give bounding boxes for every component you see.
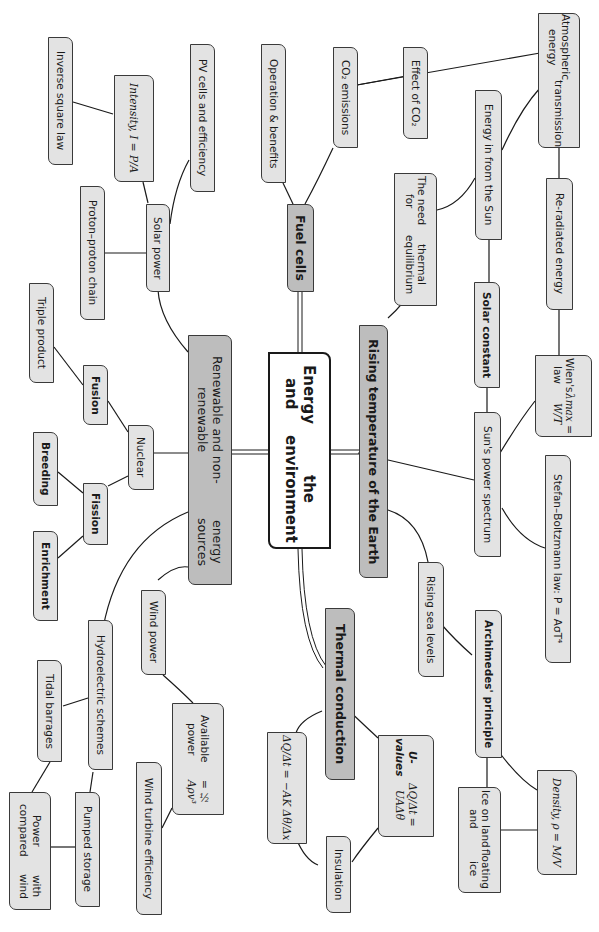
node-ice-land-floating[interactable]: Ice on land and floating ice [458, 787, 501, 893]
enrichment-label: Enrichment [39, 542, 52, 610]
tidal-label: Tidal barrages [43, 674, 56, 749]
stefan-label: Stefan–Boltzmann law: P = AσT⁴ [552, 474, 565, 643]
root-node[interactable]: Energy and the environment [268, 352, 331, 549]
node-energy-from-sun[interactable]: Energy in from the Sun [475, 90, 502, 240]
node-wind-turbine-efficiency[interactable]: Wind turbine efficiency [136, 762, 162, 915]
power-compared-line2: with wind [17, 866, 42, 907]
branch-renewable-label-line2: energy sources [195, 501, 225, 582]
node-archimedes-principle[interactable]: Archimedes' principle [475, 610, 502, 758]
node-u-values[interactable]: U-values ΔQ/Δt = UAΔθ [378, 735, 434, 837]
branch-rising-temp-label: Rising temperature of the Earth [366, 339, 381, 564]
node-tidal-barrages[interactable]: Tidal barrages [37, 660, 62, 762]
node-proton-proton-chain[interactable]: Proton–proton chain [80, 186, 105, 320]
fusion-label: Fusion [89, 376, 102, 415]
branch-thermal-conduction[interactable]: Thermal conduction [325, 608, 355, 780]
fission-label: Fission [89, 493, 102, 535]
node-density[interactable]: Density, ρ = M/V [537, 770, 577, 875]
node-breeding[interactable]: Breeding [33, 432, 58, 506]
power-compared-line1: Power compared [17, 795, 42, 866]
branch-rising-temperature[interactable]: Rising temperature of the Earth [359, 325, 388, 578]
node-solar-constant[interactable]: Solar constant [474, 282, 500, 388]
root-label-line1: Energy and [281, 356, 319, 432]
branch-renewable-energy[interactable]: Renewable and non-renewable energy sourc… [188, 335, 232, 585]
branch-renewable-label-line1: Renewable and non-renewable [195, 338, 225, 501]
breeding-label: Breeding [39, 442, 52, 496]
node-thermal-equilibrium[interactable]: The need for thermal equilibrium [394, 173, 437, 306]
energy-sun-label: Energy in from the Sun [482, 104, 495, 225]
node-co2-emissions[interactable]: CO₂ emissions [333, 47, 358, 148]
node-fusion[interactable]: Fusion [83, 365, 108, 425]
rising-sea-label: Rising sea levels [425, 576, 438, 663]
co2-emissions-label: CO₂ emissions [339, 60, 352, 135]
hydroelectric-label: Hydroelectric schemes [94, 635, 107, 755]
node-enrichment[interactable]: Enrichment [33, 531, 58, 621]
node-power-compared-wind[interactable]: Power compared with wind [9, 792, 51, 910]
wien-label-line1: Wien's law [551, 358, 576, 393]
node-wind-power[interactable]: Wind power [141, 590, 166, 675]
node-effect-of-co2[interactable]: Effect of CO₂ [403, 47, 428, 139]
suns-spectrum-label: Sun's power spectrum [481, 426, 494, 543]
u-values-formula: ΔQ/Δt = UAΔθ [393, 776, 418, 834]
proton-chain-label: Proton–proton chain [86, 200, 99, 305]
ice-label-line2: floating ice [467, 848, 492, 890]
archimedes-label: Archimedes' principle [482, 620, 495, 748]
solar-power-label: Solar power [152, 217, 165, 280]
node-inverse-square-law[interactable]: Inverse square law [48, 37, 73, 165]
available-power-formula: = ½ Aρv³ [185, 772, 210, 812]
density-label: Density, ρ = M/V [551, 778, 564, 867]
branch-fuel-cells[interactable]: Fuel cells [287, 204, 314, 292]
branch-fuel-cells-label: Fuel cells [293, 215, 308, 281]
node-rising-sea-levels[interactable]: Rising sea levels [418, 562, 444, 677]
operation-benefits-label: Operation & benefits [267, 59, 280, 169]
ice-label-line1: Ice on land and [467, 790, 492, 848]
node-operation-benefits[interactable]: Operation & benefits [261, 44, 286, 183]
reradiated-label: Re-radiated energy [553, 193, 566, 294]
effect-co2-label: Effect of CO₂ [409, 60, 422, 127]
wien-formula: λmax = W/T [551, 393, 576, 434]
inverse-square-label: Inverse square law [54, 51, 67, 150]
pv-cells-label: PV cells and efficiency [196, 59, 209, 176]
insulation-label: Insulation [332, 849, 345, 900]
node-stefan-boltzmann[interactable]: Stefan–Boltzmann law: P = AσT⁴ [545, 455, 571, 663]
thermal-eq-label-line2: thermal equilibrium [403, 226, 428, 303]
node-atmospheric-transmission[interactable]: Atmospheric energy transmission [538, 13, 580, 148]
node-intensity[interactable]: Intensity, I = P/A [114, 75, 154, 182]
atmospheric-label-line1: Atmospheric energy [546, 14, 571, 80]
branch-thermal-label: Thermal conduction [333, 624, 348, 764]
node-insulation[interactable]: Insulation [326, 836, 351, 913]
available-power-line1: Available power [185, 706, 210, 772]
wind-turbine-label: Wind turbine efficiency [143, 778, 156, 899]
node-available-power[interactable]: Available power = ½ Aρv³ [172, 703, 224, 815]
intensity-label: Intensity, I = P/A [128, 83, 141, 173]
node-hydroelectric[interactable]: Hydroelectric schemes [88, 620, 113, 770]
solar-constant-label: Solar constant [481, 292, 494, 378]
fourier-formula: ΔQ/Δt = −AK Δθ/Δx [281, 735, 294, 841]
wind-power-label: Wind power [147, 601, 160, 663]
u-values-title: U-values [393, 738, 418, 776]
node-fission[interactable]: Fission [83, 483, 108, 545]
pumped-storage-label: Pumped storage [81, 806, 94, 892]
node-solar-power[interactable]: Solar power [146, 204, 170, 292]
root-label-line2: the environment [281, 432, 319, 545]
triple-product-label: Triple product [35, 297, 48, 369]
node-suns-power-spectrum[interactable]: Sun's power spectrum [474, 412, 501, 557]
node-wiens-law[interactable]: Wien's law λmax = W/T [535, 355, 592, 437]
node-pv-cells[interactable]: PV cells and efficiency [190, 44, 215, 192]
node-pumped-storage[interactable]: Pumped storage [75, 792, 100, 907]
nuclear-label: Nuclear [135, 437, 148, 477]
node-reradiated-energy[interactable]: Re-radiated energy [546, 178, 573, 310]
node-triple-product[interactable]: Triple product [29, 283, 54, 383]
atmospheric-label-line2: transmission [553, 80, 566, 147]
node-fourier-conduction[interactable]: ΔQ/Δt = −AK Δθ/Δx [267, 732, 307, 844]
node-nuclear[interactable]: Nuclear [128, 425, 154, 490]
thermal-eq-label-line1: The need for [403, 176, 428, 226]
